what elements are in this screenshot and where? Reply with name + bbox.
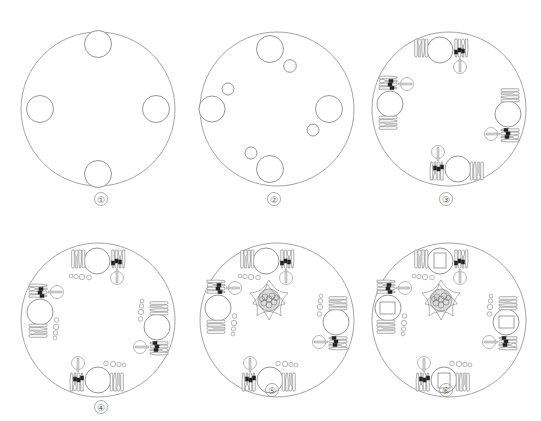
place-setting-north — [412, 248, 468, 285]
place-setting-north — [238, 248, 294, 285]
place-setting-west — [27, 284, 64, 340]
place-setting-south — [430, 146, 483, 183]
place-setting-west — [377, 76, 414, 129]
panel-step-6: ⑥ — [372, 243, 526, 397]
dinner-plate — [316, 96, 343, 123]
bread-plate — [245, 147, 257, 159]
dinner-plate — [257, 156, 284, 183]
centerpiece-flower-icon — [250, 280, 288, 320]
seat-marker — [143, 96, 170, 123]
place-setting-east — [485, 89, 522, 142]
step-label: ② — [270, 195, 278, 205]
bread-plate — [222, 83, 234, 95]
place-setting-east — [313, 294, 350, 350]
seat-marker — [85, 31, 112, 58]
place-setting-north — [415, 37, 468, 74]
step-label: ⑥ — [442, 386, 450, 396]
step-label: ③ — [442, 195, 450, 205]
place-setting-west — [205, 280, 242, 336]
step-label: ① — [97, 195, 105, 205]
bread-plate — [284, 60, 297, 73]
seat-marker — [27, 96, 54, 123]
bread-plate — [307, 124, 319, 136]
step-label: ⑤ — [268, 386, 276, 396]
seat-marker — [85, 161, 112, 188]
place-setting-west — [375, 280, 412, 336]
panel-step-1: ① — [21, 31, 175, 206]
dinner-plate — [199, 96, 225, 122]
table-setting-diagram: ① ② ③ ④ — [0, 0, 541, 421]
panel-step-3: ③ — [372, 32, 526, 206]
step-label: ④ — [97, 403, 105, 413]
place-setting-north — [69, 248, 125, 285]
place-setting-south — [70, 357, 126, 394]
centerpiece-flower-icon — [422, 280, 460, 320]
dinner-plate — [257, 36, 284, 63]
place-setting-east — [483, 294, 520, 350]
panel-step-2: ② — [199, 32, 354, 206]
panel-step-5: ⑤ — [200, 243, 354, 397]
panel-step-4: ④ — [21, 243, 175, 414]
place-setting-east — [134, 299, 171, 355]
